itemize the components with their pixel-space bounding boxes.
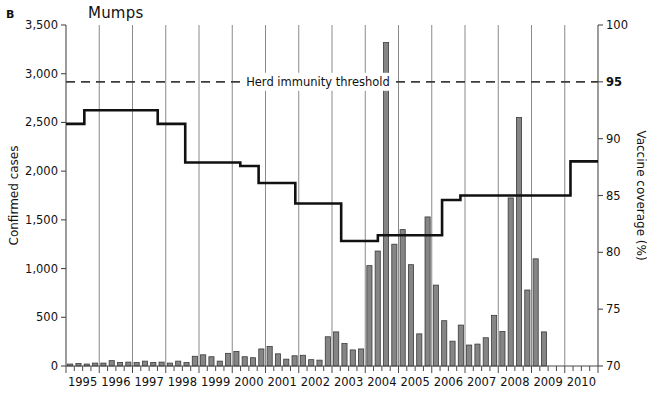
annotation-layer: Herd immunity threshold [66, 73, 598, 91]
bar-2003-Q2 [342, 344, 347, 366]
bar-2001-Q2 [275, 354, 280, 366]
bar-2006-Q4 [458, 325, 463, 366]
bar-2008-Q4 [525, 290, 530, 366]
bar-1996-Q4 [126, 362, 131, 366]
bar-2002-Q2 [309, 360, 314, 366]
bar-2007-Q4 [492, 315, 497, 366]
mumps-chart-svg: Herd immunity threshold 05001,0001,5002,… [0, 0, 647, 395]
bar-1999-Q4 [226, 353, 231, 366]
bar-2001-Q3 [284, 359, 289, 366]
y-tick-label-right: 85 [606, 189, 621, 203]
bar-2009-Q1 [533, 259, 538, 366]
bar-2007-Q1 [467, 345, 472, 366]
bar-2004-Q4 [392, 244, 397, 366]
bar-2005-Q4 [425, 217, 430, 366]
x-tick-label-1995: 1995 [68, 375, 97, 389]
y-axis-label-right: Vaccine coverage (%) [634, 130, 647, 260]
y-tick-label-left: 2,000 [25, 164, 58, 178]
bar-2004-Q2 [375, 251, 380, 366]
bar-2005-Q1 [400, 230, 405, 366]
bar-2002-Q3 [317, 360, 322, 366]
y-tick-label-left: 500 [36, 310, 58, 324]
x-tick-label-2006: 2006 [434, 375, 463, 389]
y-tick-label-left: 2,500 [25, 115, 58, 129]
figure-panel: B Mumps Herd immunity threshold 05001,00… [0, 0, 647, 395]
bar-2000-Q2 [242, 357, 247, 366]
y-tick-label-right: 80 [606, 245, 621, 259]
x-tick-label-2004: 2004 [367, 375, 396, 389]
bar-1999-Q3 [217, 361, 222, 366]
x-tick-label-2008: 2008 [500, 375, 529, 389]
x-tick-label-2002: 2002 [301, 375, 330, 389]
bar-1997-Q2 [142, 361, 147, 366]
bar-2004-Q1 [367, 266, 372, 366]
bar-2009-Q2 [541, 332, 546, 366]
bar-2002-Q1 [300, 355, 305, 366]
y-tick-label-right: 90 [606, 132, 621, 146]
y-tick-label-left: 1,500 [25, 213, 58, 227]
bar-2001-Q1 [267, 347, 272, 366]
bar-2006-Q3 [450, 341, 455, 366]
bar-2008-Q1 [500, 331, 505, 366]
bar-2000-Q1 [234, 351, 239, 366]
bar-2000-Q4 [259, 349, 264, 366]
y-tick-label-left: 3,500 [25, 18, 58, 32]
bar-1998-Q4 [192, 356, 197, 366]
x-tick-label-2003: 2003 [334, 375, 363, 389]
bar-1997-Q4 [159, 362, 164, 366]
bar-2007-Q2 [475, 344, 480, 366]
herd-immunity-threshold-label: Herd immunity threshold [246, 75, 390, 89]
bar-2008-Q2 [508, 198, 513, 366]
y-tick-label-left: 1,000 [25, 262, 58, 276]
bar-2005-Q3 [417, 334, 422, 366]
x-tick-label-2001: 2001 [267, 375, 296, 389]
y-tick-label-left: 3,000 [25, 67, 58, 81]
bar-1998-Q2 [176, 361, 181, 366]
bar-1999-Q1 [201, 355, 206, 366]
y-tick-label-right: 70 [606, 359, 621, 373]
y-tick-label-right: 75 [606, 302, 621, 316]
bar-2006-Q2 [442, 321, 447, 366]
bar-2006-Q1 [433, 285, 438, 366]
bar-2002-Q4 [325, 337, 330, 366]
x-tick-label-2010: 2010 [567, 375, 596, 389]
x-tick-label-2005: 2005 [400, 375, 429, 389]
bar-2003-Q4 [359, 349, 364, 366]
bar-2004-Q3 [383, 43, 388, 366]
x-tick-label-2007: 2007 [467, 375, 496, 389]
bar-1999-Q2 [209, 357, 214, 366]
bar-2003-Q3 [350, 350, 355, 366]
bar-2008-Q3 [516, 118, 521, 366]
y-tick-label-left: 0 [51, 359, 58, 373]
bar-1996-Q2 [109, 361, 114, 366]
y-tick-label-right: 100 [606, 18, 628, 32]
y-axis-label-left: Confirmed cases [7, 146, 21, 246]
bar-2001-Q4 [292, 356, 297, 366]
bar-2005-Q2 [408, 265, 413, 366]
x-tick-label-2000: 2000 [234, 375, 263, 389]
x-tick-label-1999: 1999 [201, 375, 230, 389]
x-tick-label-1996: 1996 [101, 375, 130, 389]
x-tick-label-2009: 2009 [533, 375, 562, 389]
bar-2007-Q3 [483, 338, 488, 366]
x-tick-label-1997: 1997 [134, 375, 163, 389]
bar-2000-Q3 [250, 358, 255, 366]
bar-2003-Q1 [334, 332, 339, 366]
x-tick-label-1998: 1998 [168, 375, 197, 389]
y-tick-label-right: 95 [606, 75, 622, 89]
